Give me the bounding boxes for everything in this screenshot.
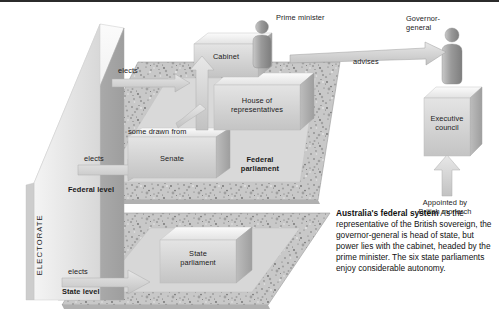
caption-lead: Australia's federal system (336, 208, 439, 218)
elects-senate-label: elects (84, 154, 104, 163)
arrow-appointed-by (434, 155, 460, 196)
federal-level-label: Federal level (68, 185, 114, 194)
prime-minister-label: Prime minister (276, 13, 325, 22)
governor-general-figure (442, 28, 462, 84)
federal-parliament-label: Federal parliament (224, 155, 296, 173)
electorate-label: ELECTORATE (35, 214, 44, 275)
caption-block: Australia's federal system As the repres… (336, 208, 494, 273)
state-parliament-label: State parliament (160, 249, 236, 267)
state-level-label: State level (62, 287, 100, 296)
executive-council-label: Executive council (422, 114, 472, 132)
governor-general-label: Governor- general (406, 14, 440, 32)
cabinet-label: Cabinet (194, 52, 258, 61)
elects-house-label: elects (118, 66, 138, 75)
house-of-representatives-label: House of representatives (214, 96, 300, 114)
elects-state-label: elects (68, 267, 88, 276)
figure-canvas: ELECTORATE elects elects elects some dra… (0, 0, 499, 311)
some-drawn-from-label: some drawn from (128, 127, 187, 136)
senate-label: Senate (128, 154, 216, 163)
advises-label: advises (353, 57, 379, 66)
